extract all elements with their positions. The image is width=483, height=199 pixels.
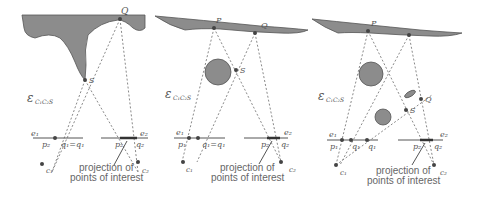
occluder-sphere-1 xyxy=(359,62,383,86)
point-p1 xyxy=(340,138,344,142)
label-p2: p₂ xyxy=(413,142,421,151)
occluder-sphere xyxy=(205,59,231,85)
point-q1 xyxy=(196,136,200,140)
label-P: P xyxy=(370,19,377,28)
caption-line-2: points of interest xyxy=(367,175,441,186)
point-q1 xyxy=(53,136,57,140)
surface-shape xyxy=(155,16,308,33)
label-epsilon-sub: C₁C₂S xyxy=(173,94,191,101)
label-p1: p₁ xyxy=(178,140,186,149)
occluder-ellipse xyxy=(404,89,417,99)
label-S: S xyxy=(240,66,246,75)
ray xyxy=(85,80,138,172)
point-S xyxy=(404,108,408,112)
label-Q: Q xyxy=(425,95,432,104)
label-epsilon-sub: C₁C₂S xyxy=(326,96,344,103)
label-c1: c₁ xyxy=(340,169,347,177)
label-e2: e₂ xyxy=(284,128,292,137)
point-Q xyxy=(118,17,122,21)
point-p1 xyxy=(187,136,191,140)
label-e2: e₂ xyxy=(440,130,448,139)
surface-shape xyxy=(22,15,145,80)
camera-c2 xyxy=(279,160,283,164)
label-q2: q₂ xyxy=(434,142,442,151)
surface-shape xyxy=(312,19,462,36)
label-q1-eq: q₁=q₁ xyxy=(61,140,84,149)
label-e2: e₂ xyxy=(140,129,148,138)
point-Q-surface xyxy=(407,33,411,37)
figure-canvas: Q S ε C₁C₂S e₁ p₂ q₁=q₁ e₂ p₂ q₂ c₁ c₂ p… xyxy=(0,0,483,199)
label-p2: p₂ xyxy=(115,140,123,149)
label-q1b: q₁ xyxy=(368,142,376,151)
camera-c2 xyxy=(432,163,436,167)
camera-c1 xyxy=(40,162,44,166)
ray xyxy=(52,80,85,172)
label-p1: p₁ xyxy=(330,142,338,151)
label-e1: e₁ xyxy=(176,128,184,137)
point-P xyxy=(212,26,216,30)
occluder-sphere-2 xyxy=(375,109,391,125)
camera-c1 xyxy=(334,163,338,167)
label-c1: c₁ xyxy=(186,166,193,174)
point-Q xyxy=(253,31,257,35)
caption-line-2: points of interest xyxy=(211,172,285,183)
label-S: S xyxy=(410,106,416,115)
camera-c1 xyxy=(181,160,185,164)
label-S: S xyxy=(89,76,95,85)
label-e1: e₁ xyxy=(31,129,39,138)
label-epsilon-sub: C₁C₂S xyxy=(35,98,53,105)
caption-line-2: points of interest xyxy=(70,172,144,183)
label-c2: c₂ xyxy=(289,166,296,174)
label-e1: e₁ xyxy=(329,130,337,139)
label-c1: c₁ xyxy=(46,167,53,175)
label-epsilon: ε xyxy=(318,89,324,103)
point-Q xyxy=(419,97,423,101)
label-q1-eq: q₁=q₁ xyxy=(202,140,225,149)
panel-1: Q S ε C₁C₂S e₁ p₂ q₁=q₁ e₂ p₂ q₂ c₁ c₂ p… xyxy=(22,6,149,183)
panel-2: P Q S ε C₁C₂S e₁ p₁ q₁=q₁ e₂ p₂ q₂ c₁ c₂… xyxy=(155,16,308,183)
panel-3: P Q S ε C₁C₂S e₁ p₁ q₁ q₁ e₂ p₂ q₂ c₁ c₂… xyxy=(312,19,462,186)
label-epsilon: ε xyxy=(165,87,171,101)
label-Q: Q xyxy=(121,6,129,16)
label-epsilon: ε xyxy=(27,91,33,105)
point-S xyxy=(83,78,87,82)
label-p2: p₂ xyxy=(261,140,269,149)
label-c2: c₂ xyxy=(440,169,447,177)
camera-c2 xyxy=(136,160,140,164)
label-Q: Q xyxy=(261,21,268,30)
label-q1: q₁ xyxy=(352,142,360,151)
label-P: P xyxy=(215,16,222,25)
label-p: p₂ xyxy=(42,140,50,149)
point-S xyxy=(234,68,238,72)
label-q2: q₂ xyxy=(281,140,289,149)
label-q2: q₂ xyxy=(136,140,144,149)
point-P xyxy=(366,29,370,33)
